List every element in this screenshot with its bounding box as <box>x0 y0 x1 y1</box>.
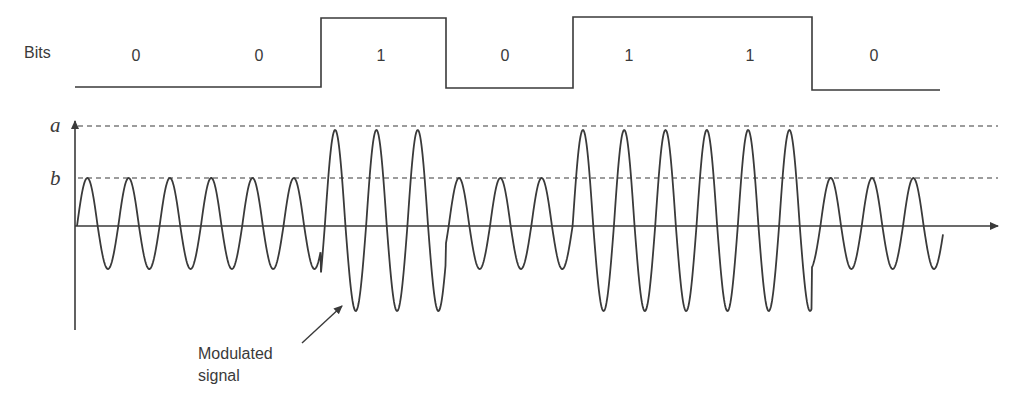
bit-value: 0 <box>132 47 141 64</box>
bit-value: 1 <box>625 47 634 64</box>
bits-label: Bits <box>24 44 51 61</box>
label-line-2: signal <box>198 365 273 387</box>
modulated-signal <box>77 130 943 311</box>
level-b-label: b <box>50 166 61 190</box>
bit-value: 0 <box>870 47 879 64</box>
bit-value: 0 <box>255 47 264 64</box>
bit-values: 0 0 1 0 1 1 0 <box>132 47 879 64</box>
ask-diagram: Bits 0 0 1 0 1 1 0 a b <box>0 0 1028 416</box>
bit-value: 1 <box>746 47 755 64</box>
pointer-arrow-icon <box>302 306 342 343</box>
bit-value: 1 <box>377 47 386 64</box>
level-a-label: a <box>50 113 61 137</box>
label-line-1: Modulated <box>198 343 273 365</box>
bit-value: 0 <box>501 47 510 64</box>
modulated-signal-label: Modulated signal <box>198 343 273 387</box>
